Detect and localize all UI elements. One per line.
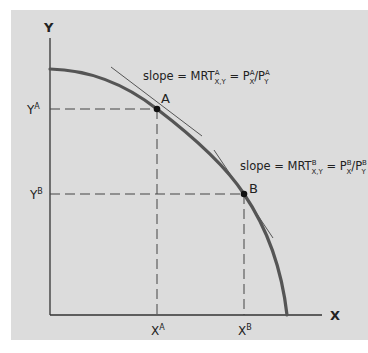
x-axis-label: X [330,308,340,323]
point-a [154,106,161,113]
point-b-label: B [249,181,258,196]
y-tick-b: YB [29,187,43,202]
point-a-label: A [161,91,170,106]
x-tick-b: XB [238,323,252,338]
point-b [241,191,248,198]
slope-annotation-a: slope = MRTAX,Y = PAX/PAY [143,69,270,86]
y-tick-a: YA [26,102,40,117]
slope-annotation-b: slope = MRTBX,Y = PBX/PBY [240,159,367,176]
y-axis-label: Y [43,20,54,35]
ppf-diagram: A B Y X YA YB XA XB slope = MRTAX,Y = PA… [0,0,368,353]
x-tick-a: XA [151,323,165,338]
